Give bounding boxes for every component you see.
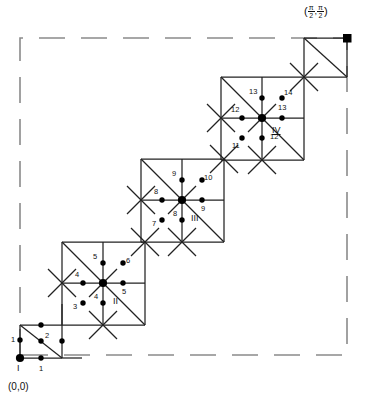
dot-9-up <box>179 177 184 182</box>
label-3-diagonal: 3 <box>73 303 77 311</box>
label-1-bottom: 1 <box>39 365 43 373</box>
node-origin <box>16 354 24 362</box>
label-11-diagonal: 11 <box>232 142 240 150</box>
corner-y-fraction: π2 <box>317 4 324 20</box>
origin-coordinate-label: (0,0) <box>8 382 29 392</box>
figure-canvas: (π2,π2) (0,0) 1 2 1 I 4 5 5 4 3 6 II 8 9… <box>0 0 366 405</box>
label-2-diagonal: 2 <box>45 332 49 340</box>
node-cell-IV <box>258 114 266 122</box>
label-9-right: 9 <box>201 205 205 213</box>
label-7-diagonal: 7 <box>152 220 156 228</box>
dot-5-right <box>120 280 125 285</box>
dot-6-diag <box>120 260 125 265</box>
corner-x-fraction: π2 <box>308 4 315 20</box>
dot-top-edge <box>38 322 43 327</box>
roman-numeral-II: II <box>113 297 118 306</box>
dot-1-left <box>17 337 22 342</box>
lattice-diagram <box>0 0 366 405</box>
dot-5-up <box>100 260 105 265</box>
cell-center-nodes <box>16 34 352 362</box>
label-9-up: 9 <box>172 170 176 178</box>
label-10-diagonal: 10 <box>204 174 212 182</box>
dot-4-down <box>100 300 105 305</box>
label-4-down: 4 <box>94 293 98 301</box>
node-cell-II <box>99 279 107 287</box>
dot-13-up <box>259 95 264 100</box>
dot-12-left <box>239 115 244 120</box>
label-13-up: 13 <box>249 88 257 96</box>
roman-numeral-IV: IV <box>272 126 281 135</box>
cell-I-lines <box>20 304 82 358</box>
dot-8-left <box>159 197 164 202</box>
dot-3-diag <box>80 300 85 305</box>
label-5-up: 5 <box>93 253 97 261</box>
dot-12-down <box>259 135 264 140</box>
label-12-left: 12 <box>231 106 239 114</box>
label-1-left: 1 <box>11 336 15 344</box>
label-6-diagonal: 6 <box>126 257 130 265</box>
corner-close-paren: ) <box>324 5 328 17</box>
roman-numeral-I: I <box>17 364 20 373</box>
label-8-left: 8 <box>154 188 158 196</box>
dot-right-edge <box>59 338 64 343</box>
label-8-down: 8 <box>173 210 177 218</box>
label-13-right: 13 <box>278 104 286 112</box>
dot-11-diag <box>239 135 244 140</box>
dot-1-bottom <box>38 355 43 360</box>
node-corner-pi2 <box>343 34 352 43</box>
dot-2-diag <box>38 338 43 343</box>
label-14-diagonal: 14 <box>284 89 292 97</box>
label-5-right: 5 <box>122 288 126 296</box>
dot-8-down <box>179 217 184 222</box>
node-cell-III <box>178 196 186 204</box>
dot-13-right <box>279 115 284 120</box>
corner-coordinate-label: (π2,π2) <box>304 4 328 20</box>
dot-7-diag <box>159 217 164 222</box>
label-4-left: 4 <box>75 271 79 279</box>
lattice-dots <box>17 95 284 360</box>
dot-9-right <box>199 197 204 202</box>
dot-4-left <box>80 280 85 285</box>
roman-numeral-III: III <box>191 214 199 223</box>
